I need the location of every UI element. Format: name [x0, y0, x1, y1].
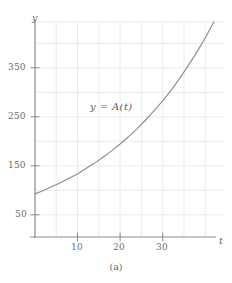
- chart-canvas: [0, 0, 232, 283]
- y-axis-label: y: [32, 12, 37, 23]
- curve-annotation-label: y = A(t): [90, 101, 133, 112]
- x-tick-label-30: 30: [156, 242, 168, 252]
- figure-container: y t 350 250 150 50 10 20 30 y = A(t) (a): [0, 0, 232, 283]
- y-tick-label-350: 350: [8, 62, 26, 72]
- axis-lines: [30, 20, 216, 238]
- grid-lines-vertical: [56, 22, 205, 237]
- y-tick-label-50: 50: [15, 209, 27, 219]
- x-axis-label: t: [219, 235, 223, 246]
- x-tick-label-20: 20: [113, 242, 125, 252]
- x-tick-label-10: 10: [71, 242, 83, 252]
- grid-lines-horizontal: [35, 22, 224, 215]
- figure-caption: (a): [0, 261, 232, 272]
- y-tick-label-250: 250: [8, 111, 26, 121]
- y-tick-label-150: 150: [8, 160, 26, 170]
- axis-tick-marks: [31, 68, 163, 242]
